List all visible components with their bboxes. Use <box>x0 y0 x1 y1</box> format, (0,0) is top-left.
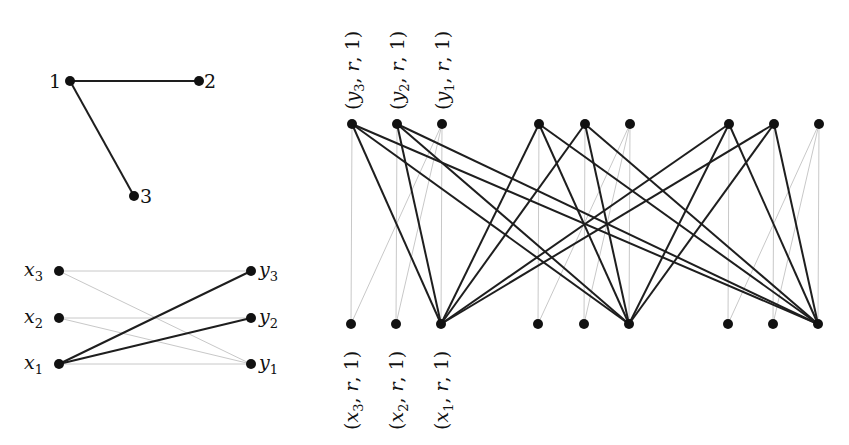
label-x1: x1 <box>24 351 43 377</box>
large-light-edge <box>351 124 352 324</box>
bottom-label-2: (x1, r, 1) <box>430 351 456 430</box>
large-light-edge <box>629 124 630 324</box>
label-x2: x2 <box>24 305 43 331</box>
node-y3 <box>246 266 256 276</box>
large-dark-edge <box>774 124 818 324</box>
bottom-node-5 <box>624 319 634 329</box>
top-node-3 <box>534 119 544 129</box>
bottom-label-0: (x3, r, 1) <box>340 351 366 430</box>
node-label-2: 2 <box>204 70 216 92</box>
bottom-node-7 <box>768 319 778 329</box>
top-node-2 <box>437 119 447 129</box>
top-label-1: (y2, r, 1) <box>386 31 412 110</box>
bottom-node-4 <box>579 319 589 329</box>
label-y3: y3 <box>258 258 278 284</box>
diagram-canvas: 123x3x2x1y3y2y1(y3, r, 1)(y2, r, 1)(y1, … <box>0 0 849 445</box>
top-node-5 <box>625 119 635 129</box>
top-node-4 <box>580 119 590 129</box>
graph-node-2 <box>194 76 204 86</box>
label-y2: y2 <box>258 305 278 331</box>
graph-node-1 <box>65 76 75 86</box>
top-node-1 <box>392 119 402 129</box>
top-node-6 <box>724 119 734 129</box>
large-light-edge <box>441 124 442 324</box>
bottom-node-1 <box>391 319 401 329</box>
large-dark-edge <box>441 124 585 324</box>
graph-node-3 <box>129 191 139 201</box>
bottom-node-6 <box>723 319 733 329</box>
node-x3 <box>54 266 64 276</box>
top-node-7 <box>769 119 779 129</box>
graph-edge <box>70 81 134 196</box>
label-x3: x3 <box>24 258 43 284</box>
node-x1 <box>54 359 64 369</box>
bottom-node-2 <box>436 319 446 329</box>
large-light-edge <box>538 124 539 324</box>
large-dark-edge <box>397 124 441 324</box>
top-label-2: (y1, r, 1) <box>431 31 457 110</box>
large-light-edge <box>818 124 819 324</box>
node-y2 <box>246 313 256 323</box>
bottom-node-3 <box>533 319 543 329</box>
node-y1 <box>246 359 256 369</box>
node-x2 <box>54 313 64 323</box>
bottom-node-0 <box>346 319 356 329</box>
labels: 123x3x2x1y3y2y1(y3, r, 1)(y2, r, 1)(y1, … <box>24 31 457 430</box>
large-dark-edge <box>629 124 774 324</box>
bottom-node-8 <box>813 319 823 329</box>
bottom-label-1: (x2, r, 1) <box>385 351 411 430</box>
node-label-3: 3 <box>140 185 152 207</box>
top-node-8 <box>814 119 824 129</box>
large-light-edge <box>728 124 729 324</box>
label-y1: y1 <box>258 351 278 377</box>
top-node-0 <box>347 119 357 129</box>
large-dark-edge <box>629 124 729 324</box>
top-label-0: (y3, r, 1) <box>341 31 367 110</box>
node-label-1: 1 <box>49 70 61 92</box>
